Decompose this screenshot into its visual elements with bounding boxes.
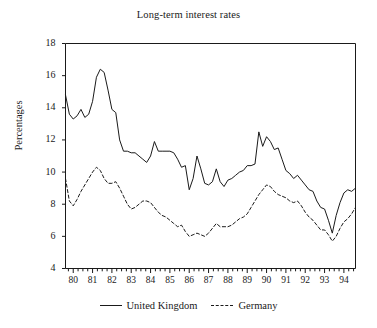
legend-label: United Kingdom <box>127 300 198 311</box>
y-tick-label: 18 <box>34 37 56 48</box>
legend-item-1[interactable]: United Kingdom <box>100 300 198 311</box>
chart-legend: United KingdomGermany <box>0 300 377 311</box>
y-tick-label: 12 <box>34 133 56 144</box>
legend-swatch-dashed-icon <box>211 305 233 307</box>
series-line-1 <box>66 69 356 233</box>
y-tick-label: 6 <box>34 230 56 241</box>
chart-figure: Long-term interest rates Percentages 468… <box>0 0 377 328</box>
legend-label: Germany <box>238 300 277 311</box>
y-tick-label: 4 <box>34 262 56 273</box>
series-line-2 <box>66 167 356 241</box>
axis-frame <box>66 44 356 269</box>
y-tick-label: 8 <box>34 198 56 209</box>
x-tick-label: 94 <box>333 275 355 285</box>
data-series-group <box>66 69 356 241</box>
legend-item-2[interactable]: Germany <box>211 300 277 311</box>
y-tick-label: 10 <box>34 166 56 177</box>
x-axis-ticks <box>68 269 353 274</box>
legend-swatch-solid-icon <box>100 305 122 307</box>
y-tick-label: 14 <box>34 101 56 112</box>
y-axis-ticks <box>62 44 66 269</box>
y-tick-label: 16 <box>34 69 56 80</box>
